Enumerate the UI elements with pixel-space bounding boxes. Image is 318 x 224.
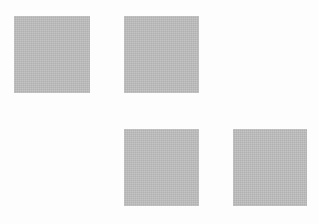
- gray-square-top-left: [14, 16, 90, 93]
- gray-square-bottom-center: [124, 129, 199, 206]
- gray-square-top-center: [124, 16, 199, 93]
- gray-square-bottom-right: [233, 129, 307, 206]
